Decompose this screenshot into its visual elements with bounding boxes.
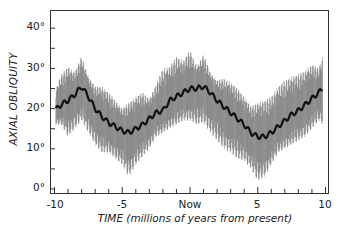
y-tick-label: 0° (19, 181, 45, 193)
x-axis-label: TIME (millions of years from present) (60, 212, 330, 224)
x-tick-label: Now (173, 198, 207, 210)
y-tick-label: 10° (19, 141, 45, 153)
oscillation-band (56, 52, 323, 179)
x-tick-label: 10 (308, 198, 342, 210)
y-tick-label: 30° (19, 61, 45, 73)
y-tick-label: 40° (19, 20, 45, 32)
x-tick-label: -5 (105, 198, 139, 210)
y-tick-label: 20° (19, 101, 45, 113)
x-tick-label: 5 (240, 198, 274, 210)
x-tick-label: -10 (38, 198, 72, 210)
